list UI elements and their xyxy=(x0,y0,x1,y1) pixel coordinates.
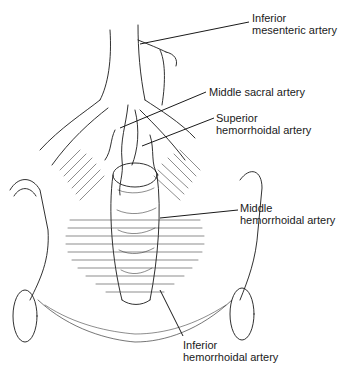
anatomy-illustration xyxy=(0,0,339,368)
label-line: mesenteric artery xyxy=(252,24,337,36)
label-line: Superior xyxy=(216,112,311,124)
label-line: Middle xyxy=(240,202,335,214)
label-line: hemorrhoidal artery xyxy=(240,214,335,226)
rectum-lumen xyxy=(113,163,157,187)
label-line: hemorrhoidal artery xyxy=(216,124,311,136)
leader-inferior-mesenteric xyxy=(140,22,249,44)
superior-hemorrhoidal-vessel xyxy=(120,105,138,195)
label-line: Inferior xyxy=(183,339,278,351)
aorta xyxy=(100,25,145,100)
label-middle-hemorrhoidal-artery: Middle hemorrhoidal artery xyxy=(240,202,335,226)
label-inferior-mesenteric-artery: Inferior mesenteric artery xyxy=(252,12,337,36)
right-iliac xyxy=(140,100,195,160)
left-side-structure xyxy=(10,180,48,301)
label-line: Middle sacral artery xyxy=(209,86,305,98)
label-line: hemorrhoidal artery xyxy=(183,351,278,363)
leader-inferior-hemorrhoidal xyxy=(160,290,183,336)
left-iliac xyxy=(40,100,108,165)
label-middle-sacral-artery: Middle sacral artery xyxy=(209,86,305,98)
leader-middle-hemorrhoidal xyxy=(160,210,238,218)
label-line: Inferior xyxy=(252,12,337,24)
rectum-wall xyxy=(111,175,159,305)
label-superior-hemorrhoidal-artery: Superior hemorrhoidal artery xyxy=(216,112,311,136)
right-side-structure xyxy=(240,172,262,300)
leader-superior-hemorrhoidal xyxy=(142,118,214,146)
label-inferior-hemorrhoidal-artery: Inferior hemorrhoidal artery xyxy=(183,339,278,363)
